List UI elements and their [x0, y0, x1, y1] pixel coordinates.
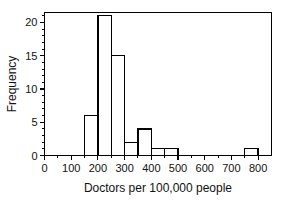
histogram-bar — [165, 149, 178, 156]
histogram-bar — [111, 56, 124, 156]
x-tick-label: 300 — [115, 162, 133, 174]
x-tick-label: 400 — [142, 162, 160, 174]
x-tick-label: 700 — [222, 162, 240, 174]
x-tick-label: 600 — [196, 162, 214, 174]
histogram-bar — [98, 16, 111, 156]
histogram-bar — [85, 116, 98, 156]
histogram-bar — [125, 142, 138, 155]
histogram-figure: 05101520 0100200300400500600700800 Docto… — [0, 0, 289, 201]
y-tick-label: 15 — [25, 50, 37, 62]
plot-frame — [45, 13, 272, 156]
histogram-bar — [245, 149, 258, 156]
y-tick-label: 20 — [25, 16, 37, 28]
histogram-bar — [138, 129, 151, 156]
x-tick-label: 100 — [62, 162, 80, 174]
x-tick-label: 500 — [169, 162, 187, 174]
histogram-bars — [85, 16, 259, 156]
x-tick-label: 0 — [41, 162, 47, 174]
y-axis-title: Frequency — [5, 56, 19, 113]
histogram-plot: 05101520 0100200300400500600700800 Docto… — [0, 0, 289, 201]
x-axis-tick-labels: 0100200300400500600700800 — [41, 162, 267, 174]
y-tick-label: 0 — [31, 150, 37, 162]
x-tick-label: 200 — [89, 162, 107, 174]
x-tick-label: 800 — [249, 162, 267, 174]
y-axis-tick-labels: 05101520 — [25, 16, 37, 161]
y-tick-label: 5 — [31, 116, 37, 128]
y-tick-label: 10 — [25, 83, 37, 95]
histogram-bar — [151, 149, 164, 156]
x-axis-title: Doctors per 100,000 people — [84, 181, 232, 195]
